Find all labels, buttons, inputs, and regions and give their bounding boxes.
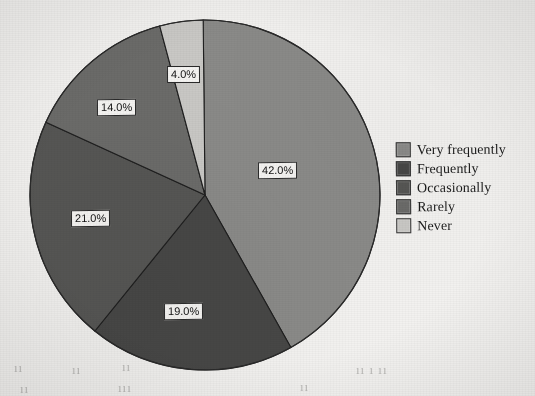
pie-slice-value-label: 21.0% — [71, 210, 110, 227]
legend-item[interactable]: Rarely — [396, 197, 506, 217]
legend-item[interactable]: Occasionally — [396, 178, 506, 198]
pie-chart-figure: 42.0%19.0%21.0%14.0%4.0% Very frequently… — [0, 0, 535, 396]
legend-item[interactable]: Never — [396, 216, 506, 236]
pie-chart-plot-area — [0, 0, 390, 396]
legend-color-swatch — [396, 199, 411, 214]
legend-item-label: Frequently — [417, 160, 479, 176]
legend-color-swatch — [396, 180, 411, 195]
pie-slice-value-label: 42.0% — [258, 162, 297, 179]
legend-item[interactable]: Very frequently — [396, 140, 506, 160]
chart-legend: Very frequentlyFrequentlyOccasionallyRar… — [396, 140, 507, 236]
legend-item-label: Occasionally — [417, 179, 491, 195]
pie-slice-value-label: 4.0% — [167, 66, 200, 83]
legend-color-swatch — [396, 218, 411, 233]
legend-item-label: Very frequently — [417, 141, 506, 158]
pie-slice-value-label: 19.0% — [164, 303, 203, 320]
legend-item[interactable]: Frequently — [396, 159, 506, 179]
legend-item-label: Never — [417, 217, 452, 233]
legend-color-swatch — [396, 161, 411, 176]
legend-color-swatch — [396, 142, 411, 157]
pie-chart-svg — [0, 0, 390, 396]
legend-item-label: Rarely — [417, 198, 455, 214]
pie-slice-value-label: 14.0% — [97, 99, 136, 116]
